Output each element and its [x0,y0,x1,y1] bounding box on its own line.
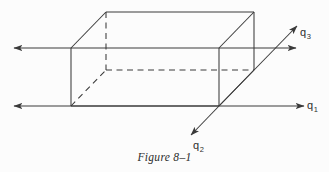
flux-arrows [14,26,304,135]
flux-label-q2-base: q [193,139,199,151]
flux-label-q2: q2 [193,139,203,151]
flux-label-q1-subscript: 1 [314,105,318,114]
figure-caption: Figure 8–1 [0,151,329,163]
figure-diagram [0,0,329,172]
box-edge-hidden-receding-bottom-left [71,70,106,106]
flux-label-q3-subscript: 3 [307,32,311,41]
box-edge-receding-top-left [71,12,106,48]
box-dashed-edges [71,12,254,106]
figure-container: q1 q2 q3 Figure 8–1 [0,0,329,172]
flux-label-q3-base: q [300,26,306,38]
flux-arrow-q3 [219,26,297,106]
flux-arrow-q2 [191,106,219,135]
box-solid-edges [71,12,254,106]
flux-label-q3: q3 [300,26,310,38]
box-edge-receding-top-right [219,12,254,48]
flux-label-q1: q1 [307,99,317,111]
flux-label-q1-base: q [307,99,313,111]
